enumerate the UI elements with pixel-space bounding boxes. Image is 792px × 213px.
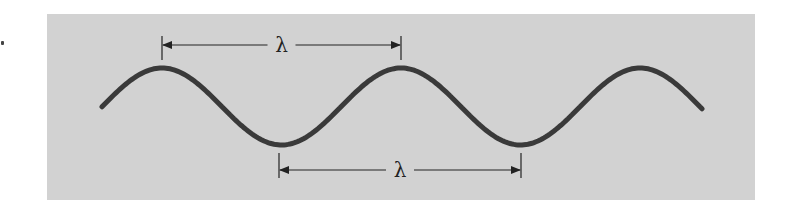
lambda-label: λ <box>394 158 407 182</box>
wavelength-diagram: λ λ <box>0 0 792 213</box>
lambda-label: λ <box>275 33 288 57</box>
